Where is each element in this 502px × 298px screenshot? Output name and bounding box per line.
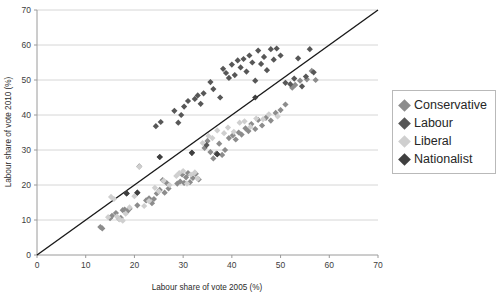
- data-point: [268, 118, 274, 124]
- data-point: [291, 76, 297, 82]
- data-point: [255, 48, 261, 54]
- data-point: [201, 90, 207, 96]
- data-point: [237, 120, 243, 126]
- data-point: [217, 94, 223, 100]
- data-point: [264, 67, 270, 73]
- data-point: [124, 190, 130, 196]
- data-point: [307, 46, 313, 52]
- data-point: [274, 45, 280, 51]
- data-point: [221, 130, 227, 136]
- data-point: [271, 57, 277, 63]
- y-tick-label: 20: [22, 180, 32, 190]
- data-point: [240, 56, 246, 62]
- x-tick-label: 0: [35, 260, 40, 270]
- y-axis-title: Labour share of vote 2010 (%): [4, 76, 13, 187]
- data-point: [222, 147, 228, 153]
- legend-item-label: Nationalist: [414, 153, 472, 166]
- data-point: [246, 52, 252, 58]
- y-tick-label: 40: [22, 110, 32, 120]
- data-point: [258, 61, 264, 67]
- data-point: [219, 152, 225, 158]
- data-point: [157, 154, 163, 160]
- data-point: [134, 202, 140, 208]
- legend-item-liberal[interactable]: Liberal: [400, 132, 489, 150]
- data-point: [299, 83, 305, 89]
- data-point: [282, 101, 288, 107]
- data-point: [216, 141, 222, 147]
- data-point: [249, 59, 255, 65]
- data-point: [178, 112, 184, 118]
- data-point: [153, 123, 159, 129]
- legend-item-nationalist[interactable]: Nationalist: [400, 150, 489, 168]
- data-point: [175, 120, 181, 126]
- chart-legend: Conservative Labour Liberal Nationalist: [392, 90, 496, 174]
- data-point: [136, 164, 142, 170]
- legend-item-label: Conservative: [414, 99, 487, 112]
- gridlines: [37, 10, 378, 220]
- legend-item-label: Labour: [414, 117, 453, 130]
- x-tick-label: 40: [227, 260, 237, 270]
- x-axis-title: Labour share of vote 2005 (%): [152, 283, 263, 292]
- data-point: [171, 108, 177, 114]
- y-tick-label: 10: [22, 215, 32, 225]
- legend-marker-diamond-icon: [398, 99, 411, 112]
- data-point: [277, 52, 283, 58]
- series-labour: [124, 45, 317, 196]
- x-tick-label: 50: [276, 260, 286, 270]
- data-point: [225, 125, 231, 131]
- data-point: [243, 69, 249, 75]
- data-point: [313, 77, 319, 83]
- data-point: [229, 62, 235, 68]
- data-point: [232, 72, 238, 78]
- data-point: [261, 54, 267, 60]
- data-point: [259, 122, 265, 128]
- scatter-chart: 010203040506070 010203040506070 Labour s…: [0, 0, 502, 298]
- x-tick-label: 70: [373, 260, 383, 270]
- y-tick-label: 0: [26, 250, 31, 260]
- data-point: [210, 155, 216, 161]
- y-tick-label: 60: [22, 40, 32, 50]
- data-point: [297, 78, 303, 84]
- y-tick-label: 30: [22, 145, 32, 155]
- data-point: [277, 107, 283, 113]
- x-axis-ticks: 010203040506070: [35, 255, 383, 270]
- x-tick-label: 60: [325, 260, 335, 270]
- data-point: [268, 46, 274, 52]
- data-point: [141, 203, 147, 209]
- legend-marker-diamond-icon: [398, 117, 411, 130]
- data-point: [252, 78, 258, 84]
- y-axis-ticks: 010203040506070: [22, 5, 37, 260]
- data-point: [214, 127, 220, 133]
- y-tick-label: 50: [22, 75, 32, 85]
- reference-line: [37, 10, 378, 255]
- legend-marker-diamond-icon: [398, 135, 411, 148]
- legend-item-label: Liberal: [414, 135, 452, 148]
- data-point: [295, 55, 301, 61]
- x-tick-label: 30: [178, 260, 188, 270]
- legend-item-conservative[interactable]: Conservative: [400, 96, 489, 114]
- data-point: [238, 64, 244, 70]
- data-points: [97, 45, 319, 231]
- data-point: [162, 190, 168, 196]
- data-point: [189, 150, 195, 156]
- y-tick-label: 70: [22, 5, 32, 15]
- data-point: [185, 98, 191, 104]
- data-point: [210, 86, 216, 92]
- x-tick-label: 10: [81, 260, 91, 270]
- data-point: [235, 57, 241, 63]
- data-point: [198, 101, 204, 107]
- data-point: [158, 119, 164, 125]
- legend-item-labour[interactable]: Labour: [400, 114, 489, 132]
- data-point: [282, 80, 288, 86]
- x-tick-label: 20: [130, 260, 140, 270]
- data-point: [241, 118, 247, 124]
- data-point: [181, 104, 187, 110]
- legend-marker-diamond-icon: [398, 153, 411, 166]
